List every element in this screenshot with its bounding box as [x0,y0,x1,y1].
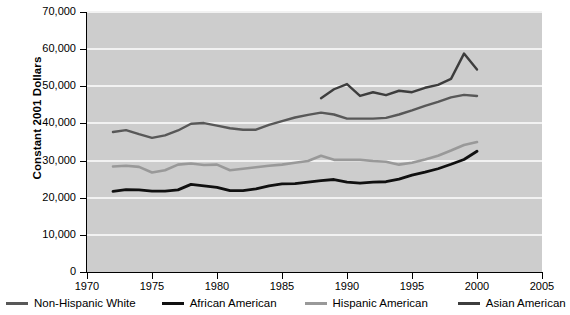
legend: Non-Hispanic WhiteAfrican AmericanHispan… [4,295,552,311]
y-tick-label: 70,000 [0,5,76,17]
legend-swatch-icon [162,302,184,305]
x-tick-label: 1995 [382,280,442,292]
plot-area [87,12,542,272]
y-tick-label: 60,000 [0,42,76,54]
x-tick-mark [412,273,413,279]
legend-label: Asian American [486,297,566,309]
y-tick-mark [80,235,87,236]
x-tick-label: 1980 [187,280,247,292]
x-tick-mark [542,273,543,279]
y-tick-label: 20,000 [0,191,76,203]
x-tick-label: 1985 [252,280,312,292]
x-tick-label: 1990 [317,280,377,292]
y-tick-label: 0 [0,265,76,277]
x-tick-mark [477,273,478,279]
x-tick-label: 2005 [512,280,570,292]
x-tick-mark [282,273,283,279]
legend-item[interactable]: African American [162,297,277,309]
legend-item[interactable]: Non-Hispanic White [6,297,136,309]
legend-swatch-icon [6,302,28,305]
y-tick-mark [80,12,87,13]
y-tick-mark [80,123,87,124]
y-tick-mark [80,198,87,199]
legend-label: Hispanic American [333,297,428,309]
y-tick-label: 30,000 [0,154,76,166]
x-tick-mark [87,273,88,279]
series-line [113,151,477,191]
legend-item[interactable]: Asian American [458,297,566,309]
series-layer [87,12,542,272]
y-tick-mark [80,86,87,87]
legend-swatch-icon [458,302,480,305]
legend-item[interactable]: Hispanic American [305,297,428,309]
y-tick-label: 50,000 [0,79,76,91]
y-tick-mark [80,49,87,50]
legend-label: Non-Hispanic White [34,297,136,309]
x-tick-label: 1970 [57,280,117,292]
y-tick-label: 10,000 [0,228,76,240]
y-tick-mark [80,272,87,273]
legend-swatch-icon [305,302,327,305]
x-tick-mark [217,273,218,279]
series-line [321,54,477,99]
y-tick-label: 40,000 [0,116,76,128]
legend-label: African American [190,297,277,309]
x-tick-mark [347,273,348,279]
x-tick-mark [152,273,153,279]
x-tick-label: 2000 [447,280,507,292]
x-axis-line [86,272,543,273]
y-tick-mark [80,161,87,162]
series-line [113,95,477,138]
series-line [113,142,477,172]
x-tick-label: 1975 [122,280,182,292]
y-axis-line [86,12,87,273]
